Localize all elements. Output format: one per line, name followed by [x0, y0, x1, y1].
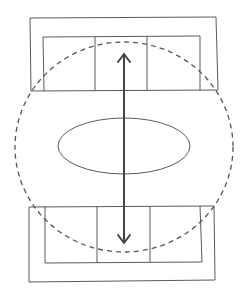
top-bay-inner	[43, 36, 200, 91]
diagram-canvas	[0, 0, 250, 303]
bottom-bay	[29, 206, 215, 282]
bottom-bay-outer	[29, 206, 215, 282]
double-arrow	[118, 54, 130, 243]
